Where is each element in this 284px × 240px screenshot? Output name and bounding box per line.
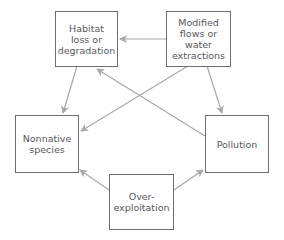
node-label: Over- exploitation: [113, 191, 169, 213]
arrow-modified-to-nonnative: [81, 66, 188, 131]
arrow-overexploitation-to-nonnative: [80, 170, 109, 190]
arrow-modified-to-pollution: [207, 66, 222, 113]
node-nonnative-species: Nonnative species: [15, 115, 79, 173]
node-habitat-loss: Habitat loss or degradation: [55, 11, 118, 67]
node-label: Pollution: [217, 139, 258, 150]
node-modified-flows: Modified flows or water extractions: [166, 11, 231, 67]
arrow-overexploitation-to-pollution: [174, 170, 203, 190]
node-pollution: Pollution: [205, 115, 269, 173]
node-label: Modified flows or water extractions: [172, 17, 225, 61]
arrow-pollution-to-habitat: [97, 69, 205, 136]
arrow-habitat-to-nonnative: [63, 66, 77, 113]
node-label: Habitat loss or degradation: [58, 23, 116, 56]
node-label: Nonnative species: [23, 133, 72, 155]
node-overexploitation: Over- exploitation: [109, 174, 174, 230]
